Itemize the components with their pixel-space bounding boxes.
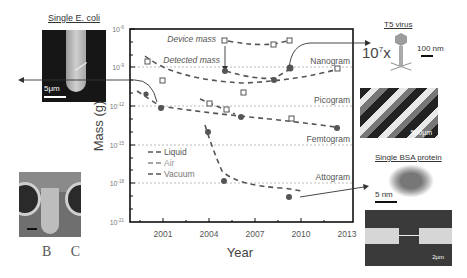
svg-text:Attogram: Attogram (316, 172, 351, 182)
svg-text:Femtogram: Femtogram (307, 134, 350, 144)
svg-text:Picogram: Picogram (314, 95, 350, 105)
svg-text:10-12: 10-12 (110, 102, 125, 110)
t5-scale-label: 100 nm (417, 44, 444, 53)
svg-text:10-9: 10-9 (112, 63, 124, 71)
bsa-caption: Single BSA protein (375, 153, 442, 162)
svg-text:2007: 2007 (246, 229, 265, 239)
t5-scale-bar (421, 55, 433, 57)
resonator-array-micrograph: 500μm (360, 88, 438, 138)
bsa-scale-bar (375, 201, 397, 203)
svg-text:2010: 2010 (292, 229, 311, 239)
bsa-scale-label: 5 nm (375, 190, 393, 199)
array-scale-label: 500μm (410, 129, 432, 136)
svg-text:10-18: 10-18 (110, 179, 125, 187)
t5-caption: T5 virus (384, 20, 412, 29)
device-mass-annotation: Device mass (167, 34, 216, 44)
detected-mass-annotation: Detected mass (163, 55, 220, 65)
svg-text:2013: 2013 (338, 229, 357, 239)
svg-text:Liquid: Liquid (164, 147, 187, 157)
svg-text:2004: 2004 (200, 229, 219, 239)
svg-text:Vacuum: Vacuum (164, 169, 195, 179)
svg-text:Air: Air (164, 158, 175, 168)
svg-text:Nanogram: Nanogram (310, 56, 350, 66)
y-axis-label: Mass (g) (91, 101, 106, 152)
multiplier-label: 107x (362, 44, 391, 61)
svg-text:2001: 2001 (154, 229, 173, 239)
bsa-protein-structure (386, 163, 436, 199)
nanoresonator-micrograph: 2μm (365, 210, 452, 266)
svg-text:10-21: 10-21 (110, 218, 125, 226)
device-scale-label: 2μm (432, 254, 444, 260)
legend: Liquid Air Vacuum (148, 147, 195, 179)
svg-text:10-6: 10-6 (112, 25, 124, 33)
x-axis-label: Year (227, 245, 254, 260)
svg-text:10-15: 10-15 (110, 141, 125, 149)
t5-virus-image (388, 33, 418, 83)
